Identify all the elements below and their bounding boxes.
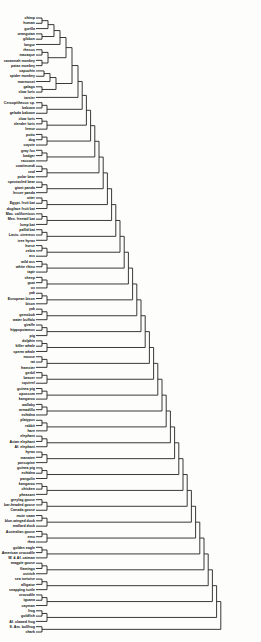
- leaf-label: guinea pig: [17, 466, 35, 470]
- leaf-label: yak: [29, 291, 35, 295]
- leaf-label: marmoset: [18, 80, 36, 84]
- leaf-label: kangaroo: [19, 397, 36, 401]
- leaf-label: zebra: [26, 249, 36, 253]
- leaf-label: dolphin: [22, 339, 35, 343]
- leaf-label: spectacled bear: [8, 180, 36, 184]
- leaf-label: hippopotamus: [10, 328, 35, 332]
- leaf-label: giant panda: [15, 186, 36, 190]
- leaf-label: Egypt. fruit bat: [10, 201, 36, 205]
- leaf-label: platypus: [20, 418, 35, 422]
- leaf-label: gelada baboon: [10, 111, 35, 115]
- leaf-label: elephant: [20, 434, 36, 438]
- leaf-label: gerbil: [25, 371, 35, 375]
- leaf-label: potto: [26, 133, 36, 137]
- leaf-label: goldfish: [21, 614, 35, 618]
- leaf-label: slow loris: [18, 117, 35, 121]
- leaf-label: rat: [30, 360, 35, 364]
- leaf-label: ass: [29, 254, 35, 258]
- leaf-label: Mac. californicus: [6, 212, 35, 216]
- leaf-label: giraffe: [24, 323, 35, 327]
- leaf-label: Australian goose: [6, 530, 35, 534]
- leaf-label: chicken: [22, 487, 35, 491]
- leaf-label: coatimundi: [16, 164, 35, 168]
- leaf-label: chimp: [24, 16, 35, 20]
- leaf-label: slender loris: [14, 122, 35, 126]
- leaf-label: bar-headed goose: [4, 503, 35, 507]
- leaf-label: echidna: [21, 413, 36, 417]
- leaf-label: human: [23, 21, 35, 25]
- leaf-label: wild ass: [20, 260, 35, 264]
- leaf-label: pallid bat: [19, 228, 36, 232]
- leaf-label: lesser panda: [13, 191, 36, 195]
- leaf-label: lump bat: [20, 223, 36, 227]
- leaf-label: sperm whale: [13, 350, 35, 354]
- leaf-label: opossum: [19, 392, 35, 396]
- leaf-label: armadillo: [19, 408, 36, 412]
- leaf-label: wallaby: [21, 403, 35, 407]
- leaf-label: raccoon: [21, 159, 35, 163]
- leaf-label: baboon: [22, 106, 35, 110]
- leaf-label: orangutan: [17, 32, 35, 36]
- leaf-label: sheep: [25, 276, 36, 280]
- dendrogram-branches: [36, 18, 221, 632]
- leaf-label: rhea: [27, 540, 36, 544]
- leaf-label: Canada goose: [10, 508, 35, 512]
- leaf-label: beaver: [23, 376, 35, 380]
- leaf-label: iguana: [23, 598, 36, 602]
- leaf-label: water buffalo: [12, 318, 36, 322]
- leaf-label: coyote: [23, 143, 35, 147]
- leaf-label: kangaroo: [19, 482, 36, 486]
- leaf-label: guinea pig: [17, 387, 35, 391]
- leaf-label: ostrich: [23, 572, 35, 576]
- leaf-label: W. & Af. caiman: [8, 556, 35, 560]
- leaf-label: magpie goose: [11, 561, 35, 565]
- leaf-label: rabbit: [25, 424, 36, 428]
- leaf-label: porcupine: [18, 461, 35, 465]
- leaf-label: echidna: [21, 471, 36, 475]
- leaf-label: gorilla: [24, 27, 36, 31]
- leaf-label: tapir: [27, 270, 35, 274]
- leaf-label: pheasant: [19, 493, 36, 497]
- leaf-label: killer whale: [16, 344, 35, 348]
- leaf-labels: chimphumangorillaorangutangibbonlangurrh…: [2, 16, 36, 634]
- leaf-label: horse: [25, 244, 35, 248]
- leaf-label: S. Am. bullfrog: [10, 625, 35, 629]
- dendrogram: chimphumangorillaorangutangibbonlangurrh…: [0, 0, 261, 642]
- leaf-label: polar bear: [18, 175, 36, 179]
- leaf-label: rhesus: [23, 48, 35, 52]
- leaf-label: Af. clawed frog: [9, 620, 35, 624]
- leaf-label: cayman: [22, 604, 35, 608]
- leaf-label: goat: [27, 281, 35, 285]
- leaf-label: badger: [23, 154, 36, 158]
- leaf-label: ox: [31, 286, 35, 290]
- leaf-label: capuchin: [19, 69, 35, 73]
- leaf-label: savannah monkey: [4, 59, 35, 63]
- leaf-label: emu: [28, 535, 35, 539]
- leaf-label: hamster: [21, 366, 36, 370]
- leaf-label: blue-winged duck: [5, 519, 35, 523]
- leaf-label: galago: [23, 85, 35, 89]
- leaf-label: mute swan: [16, 514, 35, 518]
- leaf-label: white rhino: [15, 265, 36, 269]
- leaf-label: gibbon: [23, 37, 35, 41]
- leaf-label: frog: [28, 609, 35, 613]
- leaf-label: flamingo: [20, 567, 36, 571]
- leaf-label: American crocodile: [2, 551, 35, 555]
- leaf-label: slow loris: [18, 90, 35, 94]
- leaf-label: patas monkey: [11, 64, 35, 68]
- leaf-label: mouse: [23, 355, 35, 359]
- leaf-label: Lasiu. cinereus: [9, 233, 35, 237]
- leaf-label: otter: [27, 196, 36, 200]
- leaf-label: golden eagle: [13, 546, 35, 550]
- leaf-label: seal: [28, 170, 35, 174]
- leaf-label: spider monkey: [10, 74, 35, 78]
- leaf-label: tree hyrax: [18, 239, 35, 243]
- leaf-label: shark: [25, 630, 35, 634]
- leaf-label: gray fox: [21, 149, 35, 153]
- leaf-label: squirrel: [22, 381, 35, 385]
- leaf-label: manatee: [20, 456, 35, 460]
- leaf-label: yak: [29, 307, 35, 311]
- leaf-label: gemsbok: [19, 313, 35, 317]
- leaf-label: Asian elephant: [9, 440, 35, 444]
- leaf-label: Cercopithecus sp.: [4, 101, 35, 105]
